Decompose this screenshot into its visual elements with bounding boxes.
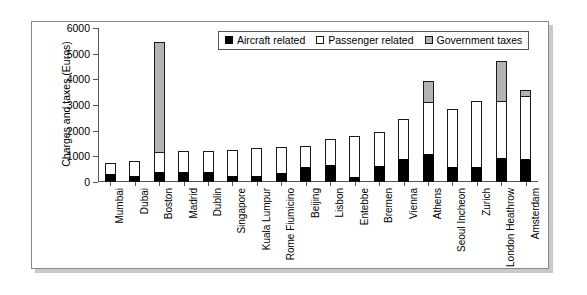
bar-segment-aircraft-related	[423, 154, 434, 182]
bar-group[interactable]	[276, 28, 287, 182]
bar-group[interactable]	[349, 28, 360, 182]
x-axis-category-label: Vienna	[408, 188, 419, 219]
bar-group[interactable]	[178, 28, 189, 182]
bar-segment-aircraft-related	[471, 167, 482, 182]
y-axis-tick-label: 6000	[67, 22, 90, 34]
x-axis-category-label: Dubai	[139, 188, 150, 214]
bar-segment-aircraft-related	[496, 158, 507, 182]
y-axis-tick-label: 1000	[67, 150, 90, 162]
x-axis-category-label: Seoul Incheon	[456, 188, 467, 252]
bar-segment-aircraft-related	[227, 176, 238, 182]
x-axis-tick	[281, 182, 282, 186]
bar-segment-aircraft-related	[300, 167, 311, 182]
x-axis-category-label: Boston	[163, 188, 174, 219]
bar-segment-passenger-related	[129, 161, 140, 176]
x-axis-tick	[306, 182, 307, 186]
x-axis-tick	[477, 182, 478, 186]
x-axis-tick	[404, 182, 405, 186]
bar-segment-passenger-related	[447, 109, 458, 167]
x-axis-tick	[110, 182, 111, 186]
bar-group[interactable]	[154, 28, 165, 182]
bar-segment-passenger-related	[251, 148, 262, 176]
bar-group[interactable]	[325, 28, 336, 182]
bar-segment-passenger-related	[203, 151, 214, 171]
bar-segment-government-taxes	[496, 61, 507, 101]
bar-segment-passenger-related	[227, 150, 238, 176]
bar-group[interactable]	[251, 28, 262, 182]
x-axis-tick	[526, 182, 527, 186]
bar-group[interactable]	[423, 28, 434, 182]
bar-segment-aircraft-related	[105, 174, 116, 182]
x-axis-category-label: Kuala Lumpur	[261, 188, 272, 250]
y-axis-tick	[93, 182, 98, 183]
bar-segment-aircraft-related	[178, 172, 189, 182]
y-axis-tick-label: 2000	[67, 125, 90, 137]
x-axis-category-label: Mumbai	[114, 188, 125, 224]
bar-group[interactable]	[374, 28, 385, 182]
x-axis-category-label: Bremen	[383, 188, 394, 223]
x-axis-category-label: Entebbe	[359, 188, 370, 225]
x-axis-tick	[159, 182, 160, 186]
x-axis-tick	[135, 182, 136, 186]
bar-segment-passenger-related	[349, 136, 360, 177]
bar-segment-government-taxes	[154, 42, 165, 152]
bar-group[interactable]	[105, 28, 116, 182]
bar-segment-aircraft-related	[251, 176, 262, 182]
bar-segment-passenger-related	[471, 101, 482, 166]
bar-segment-passenger-related	[520, 96, 531, 159]
bar-segment-passenger-related	[398, 119, 409, 159]
x-axis-tick	[501, 182, 502, 186]
x-axis-tick	[428, 182, 429, 186]
bar-segment-aircraft-related	[349, 177, 360, 182]
x-axis-category-label: Lisbon	[334, 188, 345, 217]
bar-group[interactable]	[496, 28, 507, 182]
x-axis-tick	[208, 182, 209, 186]
x-axis-category-label: Zurich	[481, 188, 492, 216]
bar-segment-passenger-related	[423, 102, 434, 154]
bar-segment-aircraft-related	[129, 176, 140, 182]
y-axis-tick-label: 5000	[67, 48, 90, 60]
bar-segment-government-taxes	[423, 81, 434, 103]
x-axis-category-label: Dublin	[212, 188, 223, 216]
bar-segment-passenger-related	[276, 147, 287, 173]
bar-segment-aircraft-related	[325, 165, 336, 182]
bar-segment-aircraft-related	[374, 166, 385, 182]
bar-group[interactable]	[227, 28, 238, 182]
bar-segment-passenger-related	[374, 132, 385, 166]
bar-group[interactable]	[129, 28, 140, 182]
bar-group[interactable]	[447, 28, 458, 182]
bar-group[interactable]	[471, 28, 482, 182]
x-axis-tick	[355, 182, 356, 186]
x-axis-tick	[232, 182, 233, 186]
bar-group[interactable]	[203, 28, 214, 182]
bar-segment-passenger-related	[154, 152, 165, 171]
bar-segment-passenger-related	[325, 139, 336, 164]
chart-figure: Charges and taxes (Euros) Aircraft relat…	[31, 21, 549, 269]
bar-segment-passenger-related	[178, 151, 189, 172]
x-axis-category-label: Rome Fiumicino	[285, 188, 296, 260]
bar-group[interactable]	[520, 28, 531, 182]
x-axis-category-label: Athens	[432, 188, 443, 219]
x-axis-category-label: Beijing	[310, 188, 321, 218]
bar-segment-passenger-related	[105, 163, 116, 174]
x-axis-tick	[184, 182, 185, 186]
bar-group[interactable]	[398, 28, 409, 182]
x-axis-tick	[257, 182, 258, 186]
x-axis-category-labels: MumbaiDubaiBostonMadridDublinSingaporeKu…	[98, 188, 538, 266]
bar-segment-passenger-related	[300, 146, 311, 167]
y-axis-tick-label: 4000	[67, 73, 90, 85]
x-axis-category-label: Madrid	[188, 188, 199, 219]
bar-segment-aircraft-related	[398, 159, 409, 182]
plot-area: 0100020003000400050006000	[98, 28, 538, 182]
x-axis-tick	[330, 182, 331, 186]
x-axis-category-label: Amsterdam	[530, 188, 541, 239]
bar-segment-passenger-related	[496, 101, 507, 157]
x-axis-tick	[452, 182, 453, 186]
bar-segment-aircraft-related	[447, 167, 458, 182]
bar-group[interactable]	[300, 28, 311, 182]
bar-segment-aircraft-related	[203, 172, 214, 182]
x-axis-category-label: London Heathrow	[505, 188, 516, 267]
bar-segment-aircraft-related	[154, 172, 165, 182]
bar-series-container	[98, 28, 538, 182]
bar-segment-aircraft-related	[276, 173, 287, 182]
